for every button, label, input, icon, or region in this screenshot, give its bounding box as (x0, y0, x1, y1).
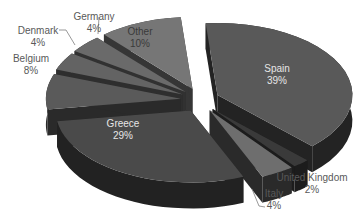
label-italy: Italy 4% (265, 188, 283, 212)
label-spain-pct: 39% (264, 75, 290, 87)
label-denmark: Denmark 4% (18, 25, 59, 49)
label-spain: Spain 39% (264, 63, 290, 87)
label-belgium-pct: 8% (13, 65, 49, 77)
label-germany-pct: 4% (73, 23, 114, 35)
label-greece-pct: 29% (107, 130, 140, 142)
label-denmark-name: Denmark (18, 25, 59, 37)
label-italy-name: Italy (265, 188, 283, 200)
label-greece-name: Greece (107, 118, 140, 130)
label-spain-name: Spain (264, 63, 290, 75)
label-belgium-name: Belgium (13, 53, 49, 65)
label-uk-name: United Kingdom (276, 172, 347, 184)
label-uk-pct: 2% (276, 184, 347, 196)
label-germany-name: Germany (73, 11, 114, 23)
label-denmark-pct: 4% (18, 37, 59, 49)
label-greece: Greece 29% (107, 118, 140, 142)
label-italy-pct: 4% (265, 200, 283, 212)
label-united-kingdom: United Kingdom 2% (276, 172, 347, 196)
label-germany: Germany 4% (73, 11, 114, 35)
label-other: Other 10% (127, 26, 152, 50)
label-other-name: Other (127, 26, 152, 38)
label-other-pct: 10% (127, 38, 152, 50)
label-belgium: Belgium 8% (13, 53, 49, 77)
